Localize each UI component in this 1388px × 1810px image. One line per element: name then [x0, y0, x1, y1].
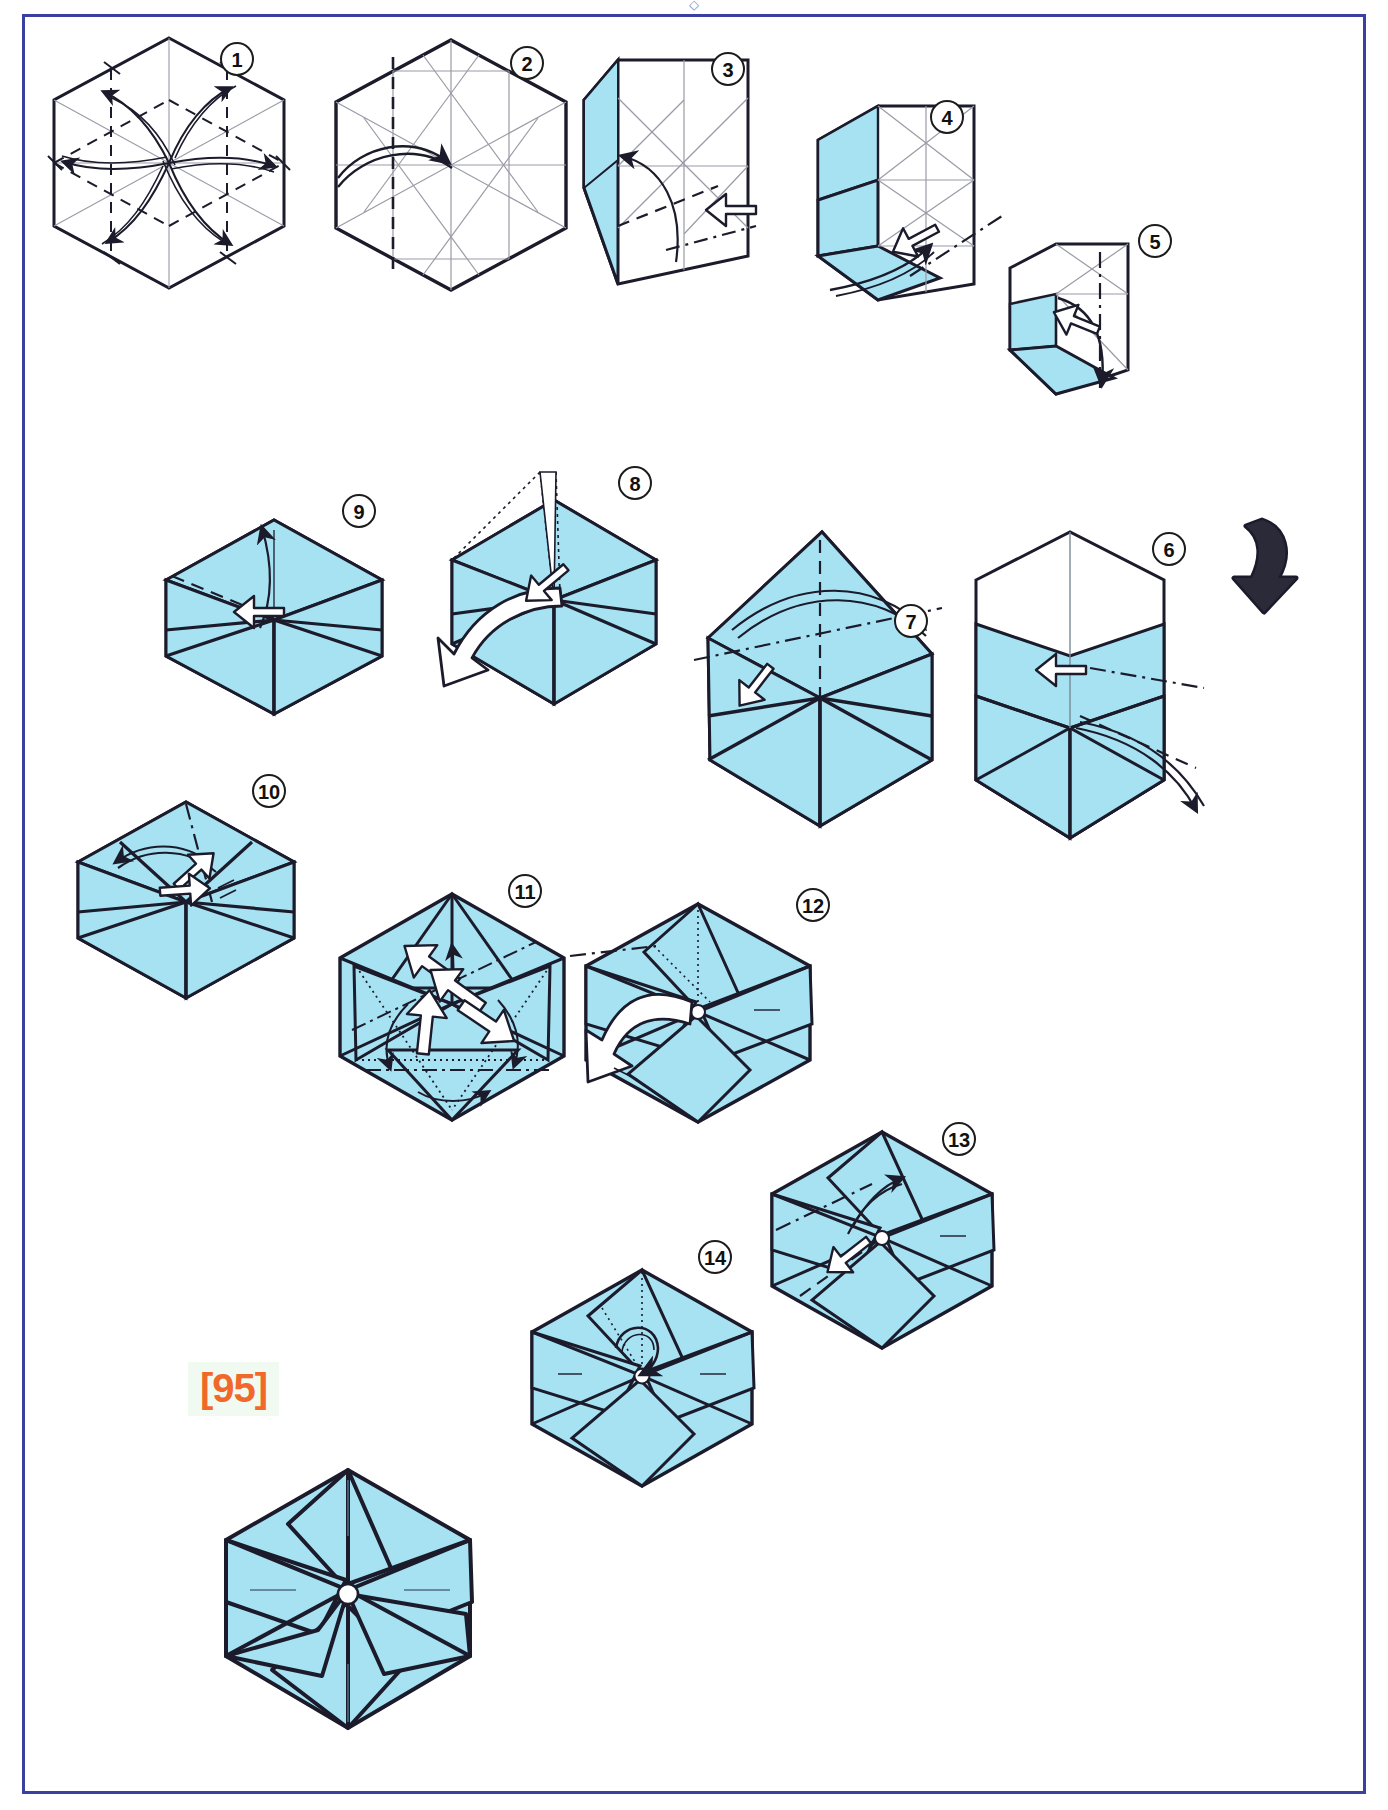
step-14-diagram: 14	[516, 1248, 766, 1498]
step-11-diagram: 11	[322, 880, 582, 1130]
step-number-6: 6	[1152, 532, 1186, 566]
step-8-diagram: 8	[430, 468, 680, 728]
step-number-12: 12	[796, 888, 830, 922]
step-number-8: 8	[618, 466, 652, 500]
final-model-diagram	[208, 1444, 488, 1744]
step-2-diagram: 2	[316, 30, 586, 300]
step-number-2: 2	[510, 46, 544, 80]
step-13-diagram: 13	[756, 1118, 1006, 1358]
step-number-13: 13	[942, 1122, 976, 1156]
step-1-diagram: 1	[34, 28, 304, 298]
step-4-diagram: 4	[790, 96, 1010, 316]
step-5-diagram: 5	[996, 238, 1166, 418]
step-10-diagram: 10	[62, 780, 312, 1010]
step-number-9: 9	[342, 494, 376, 528]
step-7-diagram: 7	[680, 510, 950, 840]
step-number-5: 5	[1138, 224, 1172, 258]
step-number-11: 11	[508, 874, 542, 908]
page-header-fragment: ◇	[0, 0, 1388, 12]
step-number-10: 10	[252, 774, 286, 808]
step-number-14: 14	[698, 1240, 732, 1274]
step-number-4: 4	[930, 100, 964, 134]
step-9-diagram: 9	[150, 500, 400, 720]
step-3-diagram: 3	[566, 38, 776, 298]
page-reference-marker: [95]	[188, 1362, 279, 1416]
step-number-7: 7	[894, 604, 928, 638]
step-number-1: 1	[220, 42, 254, 76]
step-number-3: 3	[711, 52, 745, 86]
step-12-diagram: 12	[568, 890, 828, 1130]
step-6-diagram: 6	[960, 528, 1210, 858]
turn-over-arrow	[1228, 516, 1318, 616]
